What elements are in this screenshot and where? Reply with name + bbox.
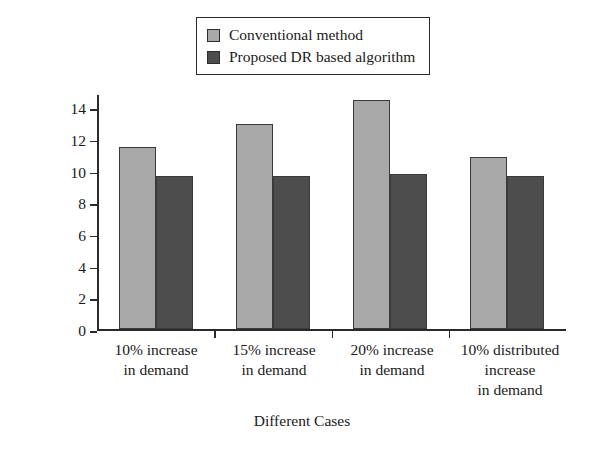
y-axis-line: [97, 95, 99, 331]
y-axis-tick-mark: [90, 109, 97, 111]
x-axis-category-label: 15% increasein demand: [215, 340, 333, 400]
plot-area: 02468101214: [97, 95, 566, 331]
x-axis-category-label-line: in demand: [333, 360, 451, 380]
legend-swatch-icon: [207, 51, 220, 64]
y-axis-tick-label: 4: [78, 260, 86, 276]
x-axis-category-label: 10% increasein demand: [97, 340, 215, 400]
y-axis-tick-label: 12: [71, 133, 87, 149]
legend-swatch-icon: [207, 29, 220, 42]
bar: [390, 174, 427, 329]
legend-item-conventional-method: Conventional method: [207, 24, 415, 46]
x-axis-category-label: 10% distributedincreasein demand: [451, 340, 569, 400]
x-axis-title: Different Cases: [0, 412, 604, 430]
x-axis-category-label-line: increase: [451, 360, 569, 380]
legend-item-proposed-dr-based-algorithm: Proposed DR based algorithm: [207, 46, 415, 68]
y-axis-tick-mark: [90, 236, 97, 238]
y-axis-tick-label: 2: [78, 292, 86, 308]
y-axis-tick-label: 8: [78, 197, 86, 213]
y-axis-tick-label: 14: [71, 102, 87, 118]
x-axis-category-separator: [449, 331, 451, 338]
bar: [236, 124, 273, 330]
bar: [353, 100, 390, 330]
y-axis-tick-mark: [90, 268, 97, 270]
y-axis-tick-mark: [90, 141, 97, 143]
x-axis-category-label-line: 10% distributed: [451, 340, 569, 360]
bar: [470, 157, 507, 330]
y-axis-tick-label: 6: [78, 228, 86, 244]
y-axis-tick-mark: [90, 173, 97, 175]
y-axis-tick-mark: [90, 204, 97, 206]
bar: [273, 176, 310, 330]
x-axis-category-label-line: 15% increase: [215, 340, 333, 360]
y-axis-tick-label: 0: [78, 323, 86, 339]
x-axis-category-separator: [332, 331, 334, 338]
x-axis-category-label-line: 20% increase: [333, 340, 451, 360]
y-axis-tick-mark: [90, 331, 97, 333]
x-axis-category-label-line: in demand: [215, 360, 333, 380]
y-axis-tick-mark: [90, 299, 97, 301]
x-axis-category-separator: [214, 331, 216, 338]
y-axis-tick-label: 10: [71, 165, 87, 181]
x-axis-category-label-line: in demand: [451, 380, 569, 400]
x-axis-category-labels: 10% increasein demand15% increasein dema…: [97, 340, 569, 400]
legend-label: Conventional method: [229, 27, 363, 43]
bar: [156, 176, 193, 330]
x-axis-category-label: 20% increasein demand: [333, 340, 451, 400]
bar-chart-figure: Conventional method Proposed DR based al…: [0, 0, 604, 452]
legend-label: Proposed DR based algorithm: [229, 49, 415, 65]
bar: [119, 147, 156, 329]
bar: [507, 176, 544, 330]
x-axis-category-label-line: in demand: [97, 360, 215, 380]
chart-legend: Conventional method Proposed DR based al…: [196, 17, 430, 75]
x-axis-category-label-line: 10% increase: [97, 340, 215, 360]
